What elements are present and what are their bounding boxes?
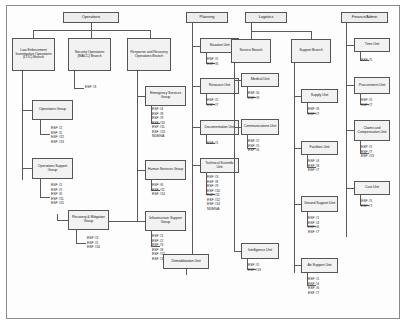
connector: [33, 30, 34, 38]
esf-list-documentation-unit: ESF #5: [207, 141, 218, 146]
connector: [40, 179, 50, 198]
connector: [137, 170, 145, 171]
connector: [294, 148, 301, 149]
node-supply-unit[interactable]: Supply Unit: [301, 89, 338, 103]
connector: [294, 63, 295, 273]
connector: [137, 96, 145, 97]
node-security-operations-branch[interactable]: Security Operations (MACC) Branch: [68, 38, 111, 71]
node-finance-admin[interactable]: Finance/Admin: [341, 12, 388, 23]
connector: [346, 188, 354, 189]
connector: [294, 204, 301, 205]
node-human-services-group[interactable]: Human Services Group: [145, 160, 186, 180]
connector: [192, 23, 193, 261]
connector: [76, 230, 86, 244]
connector: [294, 265, 301, 266]
connector: [234, 127, 241, 128]
node-law-enforcement-branch[interactable]: Law Enforcement Investigative Operations…: [12, 38, 55, 71]
node-service-branch[interactable]: Service Branch: [231, 39, 271, 63]
esf-list-situation-unit: ESF #5 ESF #6: [207, 57, 218, 66]
node-cost-unit[interactable]: Cost Unit: [354, 181, 390, 195]
esf-list-technical-scientific-unit: ESF #3 ESF #8 ESF #9 ESF #10 ESF #11 ESF…: [207, 175, 220, 211]
node-medical-unit[interactable]: Medical Unit: [241, 73, 279, 87]
connector: [22, 110, 32, 111]
node-facilities-unit[interactable]: Facilities Unit: [301, 141, 338, 155]
node-communications-unit[interactable]: Communications Unit: [241, 119, 279, 135]
connector: [294, 96, 301, 97]
node-procurement-unit[interactable]: Procurement Unit: [354, 77, 390, 94]
esf-list-cost-unit: ESF #5 ESF #7: [361, 199, 372, 208]
node-emergency-services-group[interactable]: Emergency Services Group: [145, 86, 186, 106]
esf-list-supply-unit: ESF #6 ESF #7: [308, 107, 319, 116]
connector: [192, 46, 200, 47]
connector: [234, 63, 235, 251]
esf-list-operations-support-group: ESF #1 ESF #5 ESF #6 ESF #11 ESF #15: [51, 183, 64, 206]
connector: [311, 31, 312, 39]
connector: [346, 85, 354, 86]
connector: [22, 71, 23, 180]
connector: [91, 30, 92, 38]
node-infrastructure-support-group[interactable]: Infrastructure Support Group: [145, 211, 186, 231]
connector: [137, 71, 138, 221]
esf-list-operations-group: ESF #2 ESF #5 ESF #12 ESF #13: [51, 126, 64, 144]
esf-list-emergency-services: ESF #4 ESF #8 ESF #9 ESF #10 ESF #11 ESF…: [152, 107, 165, 139]
node-support-branch[interactable]: Support Branch: [291, 39, 331, 63]
node-intelligence-unit[interactable]: Intelligence Unit: [241, 243, 279, 259]
node-operations-group[interactable]: Operations Group: [32, 100, 73, 120]
connector: [40, 120, 50, 135]
node-claims-compensation-unit[interactable]: Claims and Compensation Unit: [354, 120, 390, 141]
node-ground-support-unit[interactable]: Ground Support Unit: [301, 196, 338, 212]
esf-list-human-services: ESF #6 ESF #11 ESF #14: [152, 183, 165, 197]
esf-list-security-operations: ESF #3: [85, 85, 96, 90]
esf-list-ground-support-unit: ESF #1 ESF #4 ESF #6 ESF #7: [308, 216, 319, 234]
connector: [251, 31, 311, 32]
connector: [251, 23, 252, 31]
node-planning[interactable]: Planning: [186, 12, 228, 23]
connector: [74, 71, 84, 89]
esf-list-claims-compensation-unit: ESF #5 ESF #7 ESF #13: [361, 145, 374, 159]
connector: [192, 86, 200, 87]
connector: [192, 165, 200, 166]
node-recovery-mitigation-group[interactable]: Recovery & Mitigation Group: [68, 210, 109, 230]
esf-list-medical-unit: ESF #6 ESF #8: [248, 91, 259, 100]
esf-list-procurement-unit: ESF #5 ESF #7: [361, 98, 372, 107]
connector: [22, 168, 32, 169]
connector: [346, 130, 354, 131]
esf-list-air-support-unit: ESF #1 ESF #4 ESF #6 ESF #7: [308, 277, 319, 295]
connector: [91, 23, 92, 30]
esf-list-time-unit: ESF #5: [361, 58, 372, 63]
node-air-support-unit[interactable]: Air Support Unit: [301, 258, 338, 273]
node-time-unit[interactable]: Time Unit: [354, 38, 390, 52]
connector: [57, 220, 68, 221]
node-operations[interactable]: Operations: [63, 12, 119, 23]
connector: [234, 80, 241, 81]
connector: [251, 31, 252, 39]
connector: [234, 251, 241, 252]
node-logistics[interactable]: Logistics: [245, 12, 287, 23]
connector: [186, 269, 187, 275]
connector: [346, 45, 354, 46]
esf-list-recovery-mitigation: ESF #3 ESF #5 ESF #14: [87, 236, 100, 250]
esf-list-facilities-unit: ESF #4 ESF #6 ESF #7: [308, 159, 319, 173]
node-response-recovery-branch[interactable]: Response and Recovery Operations Branch: [127, 38, 171, 71]
connector: [109, 221, 145, 222]
node-demobilization-unit[interactable]: Demobilization Unit: [163, 254, 209, 269]
esf-list-communications-unit: ESF #2 ESF #5 ESF #6: [248, 139, 259, 153]
esf-list-intelligence-unit: ESF #5 ESF #13: [248, 263, 261, 272]
connector: [192, 127, 200, 128]
connector: [150, 30, 151, 38]
node-operations-support-group[interactable]: Operations Support Group: [32, 158, 73, 179]
esf-list-resource-unit: ESF #5 ESF #7: [207, 98, 218, 107]
org-chart-canvas: Operations Law Enforcement Investigative…: [0, 0, 406, 324]
